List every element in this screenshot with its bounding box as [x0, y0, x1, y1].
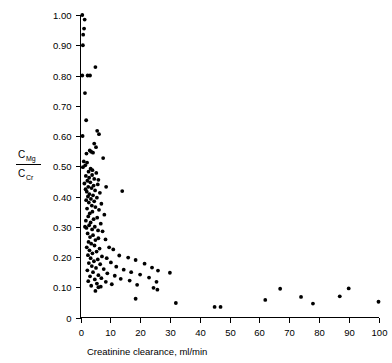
data-point: [85, 152, 89, 156]
y-tick-label: 0: [66, 313, 71, 324]
data-point: [134, 258, 138, 262]
x-tick-label: 30: [165, 327, 176, 338]
data-point: [155, 288, 159, 292]
x-tick-label: 80: [314, 327, 325, 338]
data-point: [83, 18, 87, 22]
data-point: [120, 189, 124, 193]
y-axis: 00.100.200.300.400.500.600.700.800.901.0…: [53, 10, 81, 324]
data-point: [94, 171, 98, 175]
data-point: [278, 287, 282, 291]
data-points-layer: [80, 13, 380, 309]
data-point: [94, 238, 98, 242]
data-point: [96, 178, 100, 182]
data-point: [88, 74, 92, 78]
data-point: [102, 267, 106, 271]
data-point: [81, 165, 85, 169]
y-axis-numerator-subscript: Mg: [26, 155, 36, 163]
data-point: [86, 195, 90, 199]
data-point: [91, 168, 95, 172]
data-point: [98, 191, 102, 195]
data-point: [95, 196, 99, 200]
x-tick-label: 100: [372, 327, 388, 338]
data-point: [311, 302, 315, 306]
y-axis-numerator: C: [18, 149, 25, 160]
data-point: [94, 65, 98, 69]
x-axis-ticks: [82, 318, 380, 323]
data-point: [88, 248, 92, 252]
data-point: [91, 151, 95, 155]
data-point: [138, 273, 142, 277]
y-tick-label: 0.10: [53, 282, 72, 293]
data-point: [86, 253, 90, 257]
data-point: [84, 219, 88, 223]
data-point: [128, 279, 132, 283]
data-point: [219, 305, 223, 309]
data-point: [92, 177, 96, 181]
data-point: [82, 160, 86, 164]
data-point: [94, 266, 98, 270]
data-point: [93, 244, 97, 248]
data-point: [174, 301, 178, 305]
data-point: [96, 183, 100, 187]
data-point: [95, 250, 99, 254]
data-point: [147, 276, 151, 280]
data-point: [96, 273, 100, 277]
data-point: [86, 279, 90, 283]
data-point: [105, 256, 109, 260]
data-point: [92, 217, 96, 221]
data-point: [92, 142, 96, 146]
data-point: [213, 305, 217, 309]
scatter-plot-figure: 00.100.200.300.400.500.600.700.800.901.0…: [0, 0, 392, 363]
data-point: [117, 254, 121, 258]
data-point: [83, 91, 87, 95]
data-point: [104, 185, 108, 189]
data-point: [134, 297, 138, 301]
y-tick-label: 0.50: [53, 161, 72, 172]
data-point: [99, 222, 103, 226]
data-point: [87, 261, 91, 265]
x-tick-label: 90: [344, 327, 355, 338]
data-point: [113, 274, 117, 278]
data-point: [129, 270, 133, 274]
data-point: [89, 284, 93, 288]
data-point: [105, 271, 109, 275]
data-point: [263, 298, 267, 302]
data-point: [88, 274, 92, 278]
data-point: [88, 235, 92, 239]
data-point: [85, 207, 89, 211]
data-point: [101, 156, 105, 160]
data-point: [104, 238, 108, 242]
data-point: [299, 295, 303, 299]
data-point: [81, 134, 85, 138]
data-point: [99, 202, 103, 206]
data-point: [94, 145, 98, 149]
data-point: [93, 189, 97, 193]
y-tick-label: 0.90: [53, 40, 72, 51]
data-point: [84, 118, 88, 122]
data-point: [89, 256, 93, 260]
x-tick-label: 10: [105, 327, 116, 338]
x-tick-label: 70: [284, 327, 295, 338]
x-tick-label: 40: [195, 327, 206, 338]
data-point: [98, 247, 102, 251]
data-point: [91, 251, 95, 255]
data-point: [87, 170, 91, 174]
data-point: [92, 199, 96, 203]
x-tick-label: 0: [79, 327, 84, 338]
data-point: [98, 262, 102, 266]
data-point: [100, 254, 104, 258]
data-point: [152, 286, 156, 290]
y-tick-label: 0.60: [53, 131, 72, 142]
data-point: [81, 43, 85, 47]
data-point: [95, 129, 99, 133]
data-point: [92, 259, 96, 263]
data-point: [104, 280, 108, 284]
y-tick-label: 0.70: [53, 101, 72, 112]
data-point: [156, 269, 160, 273]
y-axis-denominator: C: [18, 168, 25, 179]
data-point: [338, 294, 342, 298]
data-point: [377, 300, 381, 304]
data-point: [111, 248, 115, 252]
data-point: [84, 174, 88, 178]
data-point: [135, 283, 139, 287]
